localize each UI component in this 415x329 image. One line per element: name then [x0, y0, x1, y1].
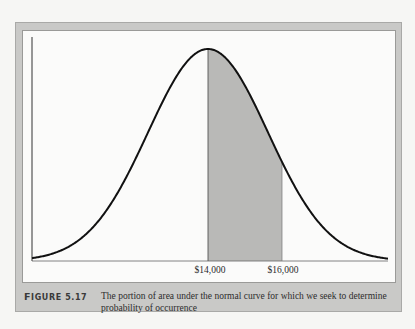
shaded-area [208, 49, 282, 261]
tick-label-14000: $14,000 [195, 265, 226, 275]
figure-label: FIGURE 5.17 [24, 291, 87, 304]
caption-text: The portion of area under the normal cur… [101, 290, 391, 314]
normal-curve-plot [0, 0, 415, 329]
tick-label-16000: $16,000 [268, 265, 299, 275]
